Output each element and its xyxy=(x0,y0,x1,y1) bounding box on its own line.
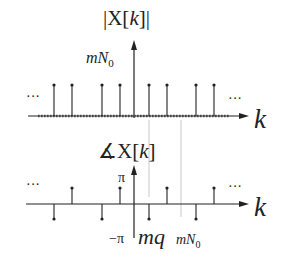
arrow-right-icon xyxy=(239,113,249,119)
pi-label: π xyxy=(118,170,125,185)
mN0-label: mN0 xyxy=(176,232,200,250)
phase-plot: ∡X[k] π ··· ··· k −π mq mN0 xyxy=(26,139,267,250)
arrow-right-icon xyxy=(239,201,249,207)
arrow-up-icon xyxy=(131,165,137,175)
ellipsis-right: ··· xyxy=(228,91,242,106)
arrow-up-icon xyxy=(131,40,137,50)
ellipsis-left: ··· xyxy=(26,177,40,192)
dft-magnitude-phase-diagram: |X[k]| mN0 ··· ··· k ∡X[k] xyxy=(0,0,282,271)
magnitude-title: |X[k]| xyxy=(103,6,150,30)
magnitude-plot: |X[k]| mN0 ··· ··· k xyxy=(26,6,267,134)
k-axis-label: k xyxy=(254,104,267,134)
ellipsis-right: ··· xyxy=(228,179,242,194)
neg-pi-label: −π xyxy=(109,231,124,246)
peak-label: mN0 xyxy=(86,49,114,69)
ellipsis-left: ··· xyxy=(26,89,40,104)
phase-title: ∡X[k] xyxy=(98,139,156,163)
mq-label: mq xyxy=(138,224,165,249)
k-axis-label: k xyxy=(254,192,267,222)
